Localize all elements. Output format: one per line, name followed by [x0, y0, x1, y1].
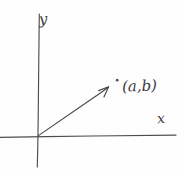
- x-axis-line: [0, 135, 176, 137]
- sketch-canvas: y x (a,b): [0, 0, 181, 173]
- y-axis-label: y: [38, 12, 48, 28]
- point-coordinate-label: (a,b): [122, 78, 158, 94]
- y-axis-line: [37, 14, 39, 167]
- x-axis-label: x: [156, 111, 165, 126]
- point-dot-icon: [116, 79, 119, 82]
- vector-arrow-shaft: [38, 87, 108, 135]
